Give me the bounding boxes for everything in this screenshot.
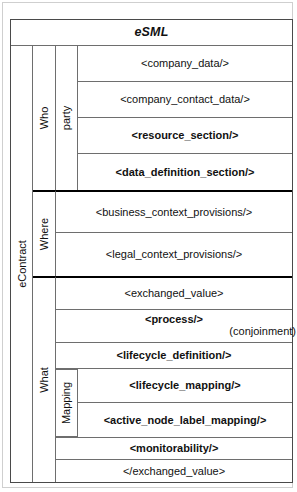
group-label-where: Where [33,190,56,276]
row-lifecycle-mapping: <lifecycle_mapping/> [78,369,292,403]
group-label-what: What [33,276,56,482]
row-monitorability: <monitorability/> [56,437,292,460]
group-label-who-text: Who [38,107,50,130]
esml-structure-diagram: eSML eContract Who Where What party Mapp… [10,19,293,483]
diagram-title: eSML [11,20,292,46]
subgroup-label-party: party [56,46,78,190]
row-data-definition-section: <data_definition_section/> [78,154,292,190]
diagram-grid: eSML eContract Who Where What party Mapp… [11,20,292,482]
row-legal-context-provisions: <legal_context_provisions/> [56,233,292,276]
row-lifecycle-definition: <lifecycle_definition/> [56,343,292,369]
row-active-node-label-mapping: <active_node_label_mapping/> [78,403,292,437]
subgroup-label-mapping-text: Mapping [61,382,73,424]
page-frame: eSML eContract Who Where What party Mapp… [2,2,293,488]
group-label-what-text: What [38,367,50,393]
row-exchanged-value-close: </exchanged_value> [56,460,292,482]
row-company-contact-data: <company_contact_data/> [78,82,292,118]
group-label-who: Who [33,46,56,190]
row-company-data: <company_data/> [78,46,292,82]
root-label-text: eContract [16,240,28,288]
root-label-econtract: eContract [11,46,33,482]
subgroup-label-mapping: Mapping [56,369,78,437]
group-label-where-text: Where [38,218,50,250]
row-process: <process/> (conjoinment) [56,310,292,343]
subgroup-label-party-text: party [61,106,73,130]
row-process-label: <process/> [56,313,292,325]
row-resource-section: <resource_section/> [78,118,292,154]
row-exchanged-value-open: <exchanged_value> [56,276,292,310]
row-process-annotation: (conjoinment) [229,325,296,337]
row-business-context-provisions: <business_context_provisions/> [56,190,292,233]
